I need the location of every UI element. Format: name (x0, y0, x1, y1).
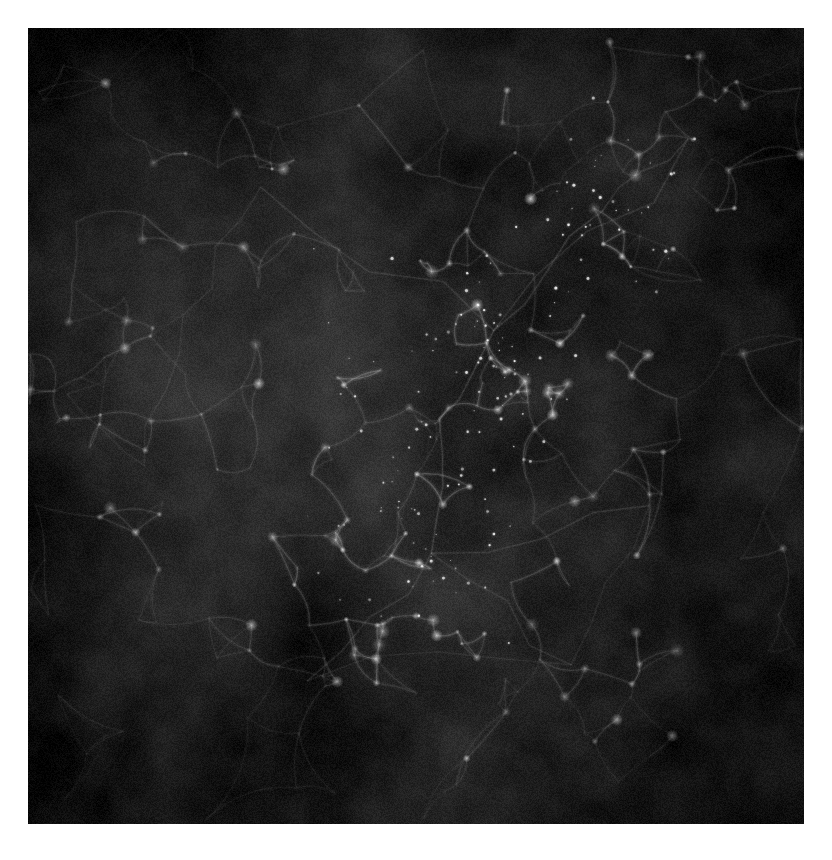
cosmic-web-image (28, 28, 804, 824)
cosmic-web-figure (28, 28, 804, 824)
